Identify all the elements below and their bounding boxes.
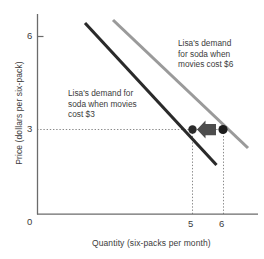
x-axis-title: Quantity (six-packs per month): [92, 238, 211, 248]
point-marker-quantity-6: [218, 125, 227, 134]
annotation-demand-cost-6: Lisa's demand for soda when movies cost …: [178, 38, 233, 70]
x-tick-label-5: 5: [188, 218, 193, 229]
x-tick-label-6: 6: [219, 218, 224, 229]
demand-shift-chart: Price (dollars per six-pack) Quantity (s…: [0, 0, 264, 259]
y-axis-title: Price (dollars per six-pack): [14, 43, 24, 183]
y-tick-label-6: 6: [27, 30, 32, 41]
y-tick-label-0: 0: [27, 216, 32, 227]
shift-arrow-icon: [197, 121, 216, 139]
point-marker-quantity-5: [188, 125, 196, 133]
y-tick-label-3: 3: [27, 123, 32, 134]
annotation-demand-cost-3: Lisa's demand for soda when movies cost …: [68, 88, 137, 120]
